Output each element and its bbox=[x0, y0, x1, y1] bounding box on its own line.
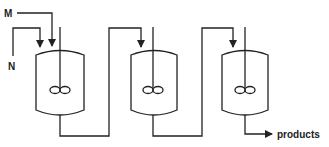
reactor-1 bbox=[36, 27, 84, 115]
reactor-2-vessel bbox=[131, 51, 177, 116]
input-label-n: N bbox=[8, 61, 15, 72]
cstr-series-diagram: M N products bbox=[0, 0, 329, 147]
transfer-line-2-3 bbox=[153, 28, 233, 136]
reactor-3 bbox=[222, 27, 268, 115]
input-label-m: M bbox=[4, 8, 12, 19]
feed-n-line bbox=[13, 28, 40, 56]
product-outlet-line bbox=[245, 115, 272, 134]
transfer-line-1-2 bbox=[60, 28, 141, 136]
reactor-2 bbox=[131, 27, 177, 115]
output-label-products: products bbox=[277, 129, 320, 140]
feed-m-line bbox=[17, 13, 52, 46]
